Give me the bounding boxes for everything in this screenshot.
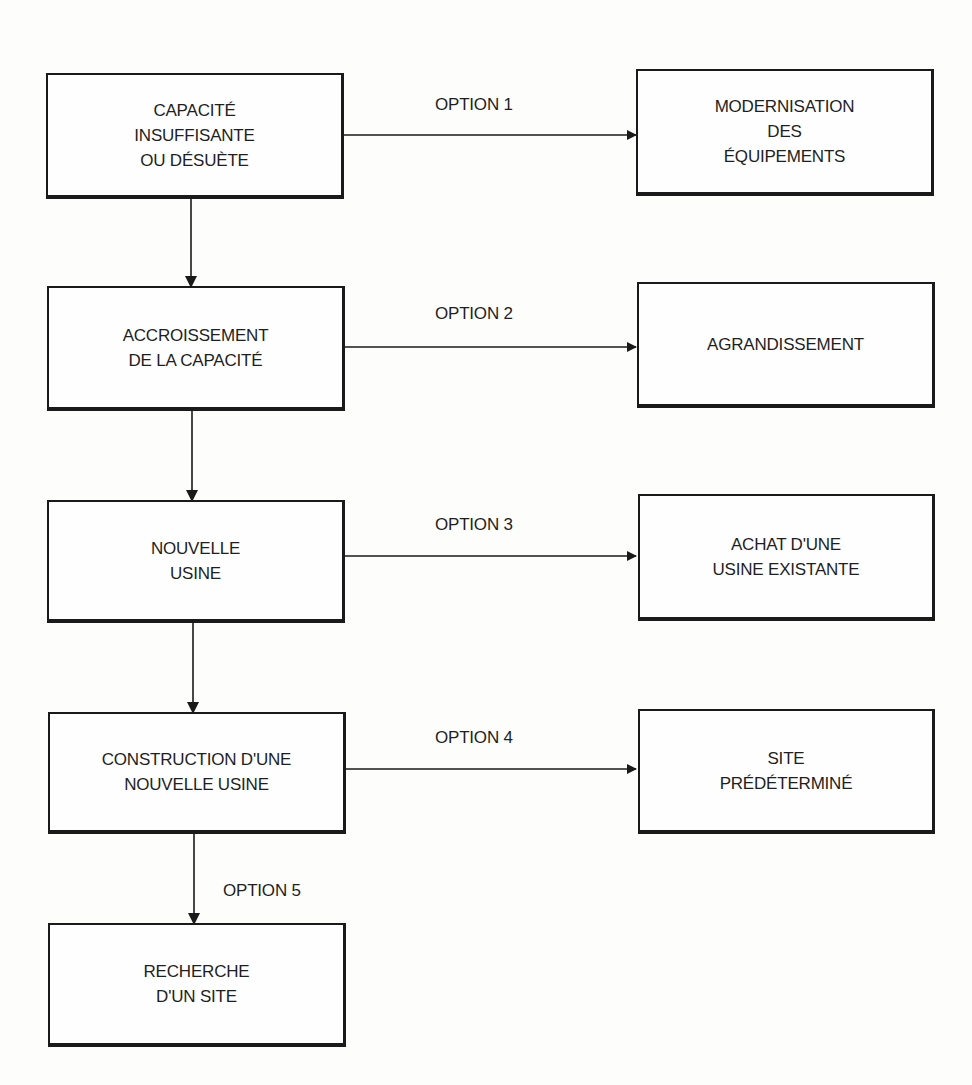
box-label: NOUVELLE USINE	[151, 536, 240, 586]
option-4-label: OPTION 4	[435, 728, 513, 748]
box-accroissement-capacite: ACCROISSEMENT DE LA CAPACITÉ	[47, 286, 345, 411]
option-3-label: OPTION 3	[435, 515, 513, 535]
box-capacite-insuffisante: CAPACITÉ INSUFFISANTE OU DÉSUÈTE	[46, 73, 344, 199]
box-label: SITE PRÉDÉTERMINÉ	[720, 746, 853, 796]
box-nouvelle-usine: NOUVELLE USINE	[47, 500, 345, 623]
box-label: CAPACITÉ INSUFFISANTE OU DÉSUÈTE	[134, 98, 254, 173]
box-modernisation-equipements: MODERNISATION DES ÉQUIPEMENTS	[636, 69, 934, 196]
box-recherche-site: RECHERCHE D'UN SITE	[48, 923, 346, 1047]
box-label: AGRANDISSEMENT	[707, 332, 864, 357]
box-label: MODERNISATION DES ÉQUIPEMENTS	[715, 94, 855, 169]
box-label: CONSTRUCTION D'UNE NOUVELLE USINE	[102, 747, 291, 797]
box-site-predetermine: SITE PRÉDÉTERMINÉ	[638, 709, 935, 834]
box-label: ACHAT D'UNE USINE EXISTANTE	[713, 532, 860, 582]
option-2-label: OPTION 2	[435, 304, 513, 324]
option-5-label: OPTION 5	[223, 881, 301, 901]
box-construction-nouvelle-usine: CONSTRUCTION D'UNE NOUVELLE USINE	[48, 712, 346, 834]
box-agrandissement: AGRANDISSEMENT	[637, 282, 935, 408]
box-label: RECHERCHE D'UN SITE	[144, 959, 250, 1009]
box-achat-usine-existante: ACHAT D'UNE USINE EXISTANTE	[638, 494, 935, 621]
box-label: ACCROISSEMENT DE LA CAPACITÉ	[123, 323, 269, 373]
option-1-label: OPTION 1	[435, 95, 513, 115]
